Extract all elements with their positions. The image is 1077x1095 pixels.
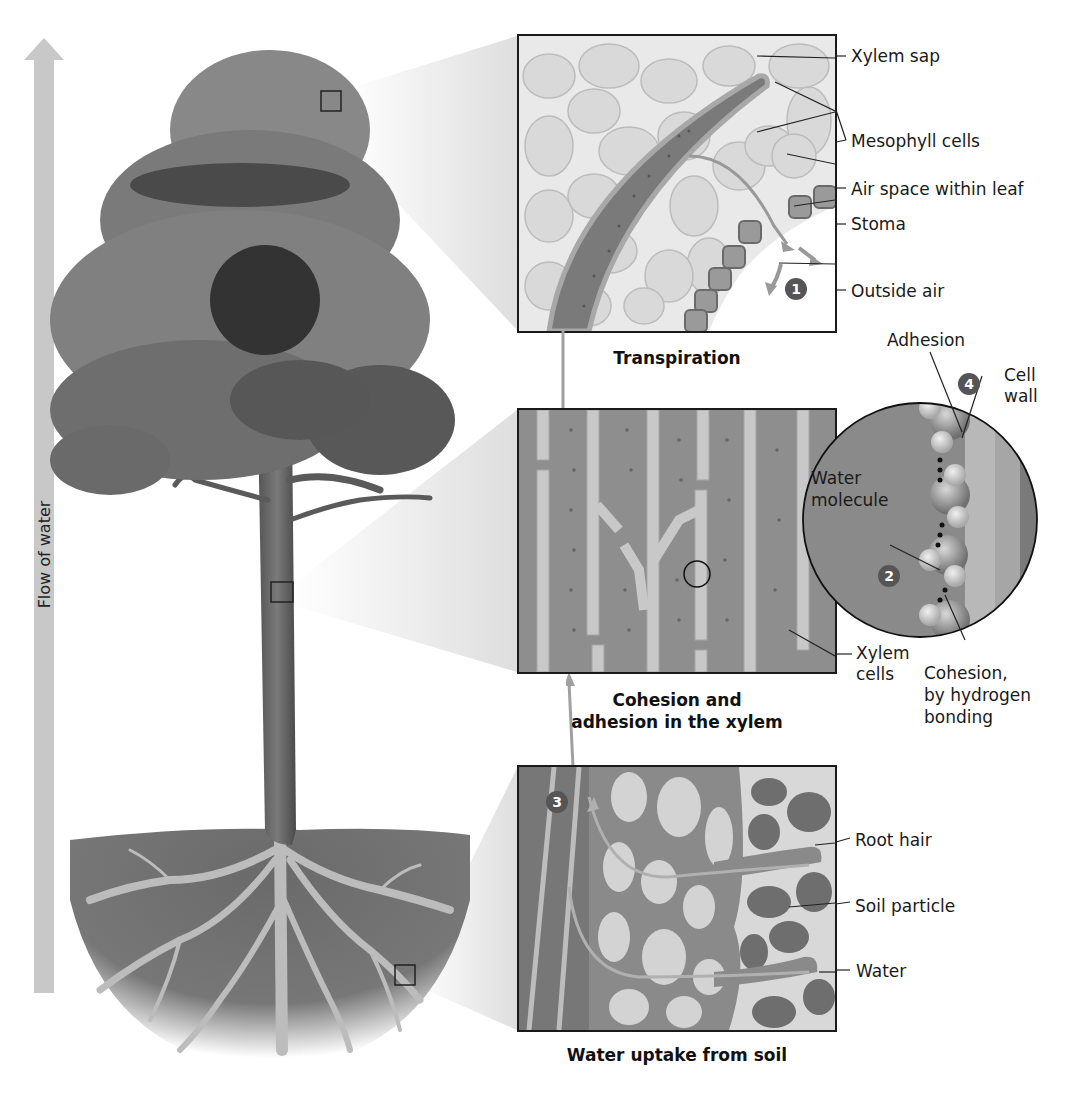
label-air-space: Air space within leaf bbox=[851, 179, 1024, 200]
step-3-badge: 3 bbox=[546, 791, 568, 813]
label-cohesion-3: bonding bbox=[924, 707, 993, 728]
label-cell-wall-2: wall bbox=[1004, 386, 1038, 407]
caption-water-uptake: Water uptake from soil bbox=[517, 1045, 837, 1066]
label-outside-air: Outside air bbox=[851, 281, 944, 302]
label-xylem-cells-2: cells bbox=[856, 664, 894, 685]
label-adhesion: Adhesion bbox=[887, 330, 965, 351]
leader-lines-top bbox=[836, 40, 856, 310]
label-mesophyll-cells: Mesophyll cells bbox=[851, 131, 980, 152]
step-1-badge: 1 bbox=[785, 278, 807, 300]
label-cohesion-1: Cohesion, bbox=[924, 663, 1008, 684]
caption-xylem-line1: Cohesion and bbox=[517, 690, 837, 711]
tree-illustration bbox=[0, 0, 520, 1095]
soil-leaders bbox=[836, 830, 856, 980]
label-water-molecule-1: Water bbox=[811, 468, 861, 489]
step-2-badge: 2 bbox=[878, 565, 900, 587]
label-cohesion-2: by hydrogen bbox=[924, 685, 1031, 706]
xylem-panel bbox=[517, 408, 837, 674]
caption-xylem-line2: adhesion in the xylem bbox=[517, 712, 837, 733]
transpiration-panel: 1 bbox=[517, 34, 837, 333]
label-cell-wall-1: Cell bbox=[1004, 365, 1036, 386]
soil-panel: 3 bbox=[517, 765, 837, 1032]
step-4-badge: 4 bbox=[958, 373, 980, 395]
label-root-hair: Root hair bbox=[855, 830, 932, 851]
label-stoma: Stoma bbox=[851, 214, 906, 235]
label-soil-particle: Soil particle bbox=[855, 896, 955, 917]
water-path-arrow-upper bbox=[556, 330, 570, 410]
label-xylem-sap: Xylem sap bbox=[851, 46, 940, 67]
label-water-molecule-2: molecule bbox=[811, 490, 888, 511]
label-water: Water bbox=[856, 961, 906, 982]
